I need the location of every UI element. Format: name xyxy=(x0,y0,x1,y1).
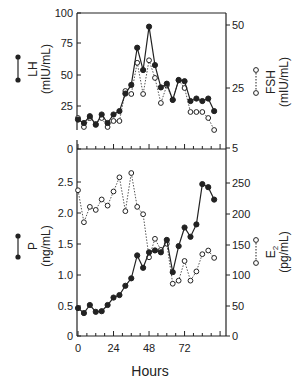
data-point xyxy=(200,98,205,103)
data-point xyxy=(158,85,163,90)
e2-legend: E2 (pg/mL) xyxy=(254,231,291,272)
data-point xyxy=(153,76,158,81)
data-point xyxy=(194,269,199,274)
lower-series xyxy=(75,171,216,316)
data-point xyxy=(152,248,157,253)
data-point xyxy=(135,204,140,209)
data-point xyxy=(117,119,122,124)
data-point xyxy=(146,250,151,255)
data-point xyxy=(176,244,181,249)
data-point xyxy=(206,185,211,190)
data-point xyxy=(158,101,163,106)
lh-axis-title: LH xyxy=(26,61,40,76)
data-point xyxy=(111,112,116,117)
lh-legend: LH (mIU/mL) xyxy=(15,44,53,94)
upper-panel: 1007550250 50255 xyxy=(55,7,245,155)
x-axis-title: Hours xyxy=(131,363,168,379)
fsh-axis-title: FSH xyxy=(264,70,278,94)
data-point xyxy=(212,197,217,202)
data-point xyxy=(164,81,169,86)
data-point xyxy=(170,270,175,275)
tick-label: 0 xyxy=(67,330,73,342)
lower-right-axis-ticks: 250200150100500 xyxy=(226,177,250,342)
tick-label: 0 xyxy=(67,143,73,155)
e2-axis-unit: (pg/mL) xyxy=(277,231,291,272)
tick-label: 50 xyxy=(61,69,73,81)
lh-axis-unit: (mIU/mL) xyxy=(39,44,53,94)
data-point xyxy=(99,197,104,202)
x-tick-label: 72 xyxy=(178,342,190,354)
data-point xyxy=(87,204,92,209)
data-point xyxy=(117,292,122,297)
data-point xyxy=(194,110,199,115)
upper-series xyxy=(75,24,216,132)
data-point xyxy=(129,92,134,97)
p-axis-title: P xyxy=(26,242,40,250)
data-point xyxy=(176,278,181,283)
data-point xyxy=(164,237,169,242)
hormone-chart: 1007550250 50255 2.52.01.51.00.50 250200… xyxy=(0,0,298,390)
tick-label: 75 xyxy=(61,37,73,49)
data-point xyxy=(135,45,140,50)
data-point xyxy=(99,112,104,117)
tick-label: 1.5 xyxy=(58,238,73,250)
data-point xyxy=(212,255,217,260)
data-point xyxy=(93,309,98,314)
data-point xyxy=(123,209,128,214)
fsh-legend: FSH (mIU/mL) xyxy=(254,57,291,107)
x-tick-label: 48 xyxy=(143,342,155,354)
tick-label: 25 xyxy=(61,100,73,112)
data-point xyxy=(188,234,193,239)
data-point xyxy=(194,222,199,227)
tick-label: 50 xyxy=(232,19,244,31)
data-point xyxy=(206,116,211,121)
data-point xyxy=(76,188,81,193)
data-point xyxy=(111,295,116,300)
data-point xyxy=(129,171,134,176)
data-point xyxy=(75,306,80,311)
data-point xyxy=(146,24,151,29)
data-point xyxy=(212,109,217,114)
tick-label: 50 xyxy=(232,300,244,312)
tick-label: 100 xyxy=(232,269,250,281)
data-point xyxy=(188,98,193,103)
data-point xyxy=(117,109,122,114)
data-point xyxy=(105,203,110,208)
data-point xyxy=(81,310,86,315)
data-point xyxy=(170,281,175,286)
x-tick-label: 0 xyxy=(75,342,81,354)
data-point xyxy=(87,302,92,307)
fsh-axis-unit: (mIU/mL) xyxy=(277,57,291,107)
data-point xyxy=(99,309,104,314)
data-point xyxy=(93,208,98,213)
data-point xyxy=(141,67,146,72)
x-tick-label: 24 xyxy=(107,342,119,354)
p-axis-unit: (ng/mL) xyxy=(39,225,53,266)
data-point xyxy=(153,236,158,241)
tick-label: 150 xyxy=(232,239,250,251)
data-point xyxy=(129,276,134,281)
data-point xyxy=(87,114,92,119)
data-point xyxy=(206,96,211,101)
data-point xyxy=(188,278,193,283)
tick-label: 0 xyxy=(232,330,238,342)
data-point xyxy=(176,77,181,82)
data-point xyxy=(105,302,110,307)
data-point xyxy=(200,252,205,257)
lower-panel: 2.52.01.51.00.50 250200150100500 xyxy=(58,150,251,342)
data-point xyxy=(123,283,128,288)
data-point xyxy=(111,119,116,124)
data-point xyxy=(123,91,128,96)
tick-label: 250 xyxy=(232,177,250,189)
data-point xyxy=(158,250,163,255)
tick-label: 0.5 xyxy=(58,300,73,312)
p-legend: P (ng/mL) xyxy=(15,225,53,266)
tick-label: 2.5 xyxy=(58,176,73,188)
tick-label: 2.0 xyxy=(58,207,73,219)
tick-label: 25 xyxy=(232,82,244,94)
tick-label: 200 xyxy=(232,208,250,220)
data-point xyxy=(111,189,116,194)
data-point xyxy=(206,248,211,253)
tick-label: 100 xyxy=(55,7,73,19)
data-point xyxy=(82,220,87,225)
